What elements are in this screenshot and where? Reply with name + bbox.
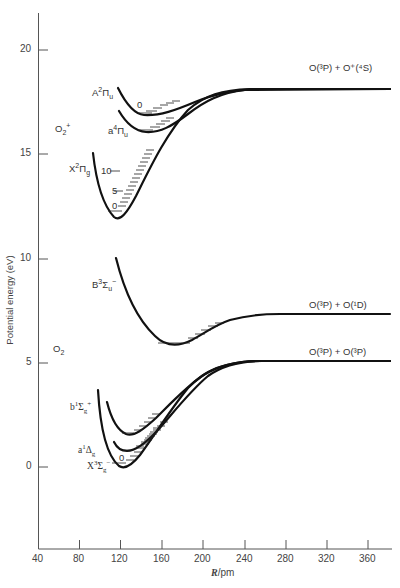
curve-a4Pi-u xyxy=(119,89,390,132)
x-axis-unit: /pm xyxy=(218,567,235,578)
x-axis-label: R/pm xyxy=(211,567,234,578)
asymptote-top-label: O(³P) + O⁺(⁴S) xyxy=(309,63,372,73)
xtick-80: 80 xyxy=(73,554,84,564)
vib-label-X-5: 5 xyxy=(112,186,117,196)
label-o2-cation: O2+ xyxy=(55,124,70,134)
xtick-160: 160 xyxy=(153,554,170,564)
asymptote-low-label: O(³P) + O(³P) xyxy=(309,347,366,357)
xtick-280: 280 xyxy=(277,554,294,564)
ytick-20: 20 xyxy=(20,44,31,54)
curve-A2Pi-u xyxy=(118,88,390,115)
vib-label-ground-0: 0 xyxy=(119,453,124,463)
xtick-240: 240 xyxy=(236,554,253,564)
ytick-5: 5 xyxy=(26,357,32,367)
xtick-320: 320 xyxy=(318,554,335,564)
ytick-15: 15 xyxy=(20,148,31,158)
label-X3Sigma-g: X3Σg− xyxy=(87,462,110,472)
label-X2Pi-g: X2Πg xyxy=(69,164,90,174)
x-axis-symbol: R xyxy=(211,567,218,578)
label-B3Sigma-u: B3Σu− xyxy=(92,280,116,290)
vib-label-X-10: 10 xyxy=(101,166,112,176)
xtick-200: 200 xyxy=(194,554,211,564)
asymptote-mid-label: O(³P) + O(¹D) xyxy=(309,300,367,310)
xtick-120: 120 xyxy=(111,554,128,564)
label-o2: O2 xyxy=(53,344,64,354)
ytick-0: 0 xyxy=(26,461,32,471)
label-A2Pi-u: A2Πu xyxy=(92,88,113,98)
y-axis-label: Potential energy (eV) xyxy=(4,255,15,344)
label-a4Pi-u: a4Πu xyxy=(108,126,128,136)
ytick-10: 10 xyxy=(20,253,31,263)
curve-b1Sigma-g xyxy=(107,361,390,435)
xtick-360: 360 xyxy=(359,554,376,564)
vib-label-X-0: 0 xyxy=(112,201,117,211)
vib-label-A-0: 0 xyxy=(137,100,142,110)
xtick-40: 40 xyxy=(32,554,43,564)
curve-a1Delta-g xyxy=(114,361,390,451)
curve-X3Sigma-g xyxy=(98,361,390,467)
label-b1Sigma-g: b1Σg+ xyxy=(70,403,91,413)
label-a1Delta-g: a1Δg xyxy=(78,446,95,456)
potential-energy-chart xyxy=(0,0,400,588)
